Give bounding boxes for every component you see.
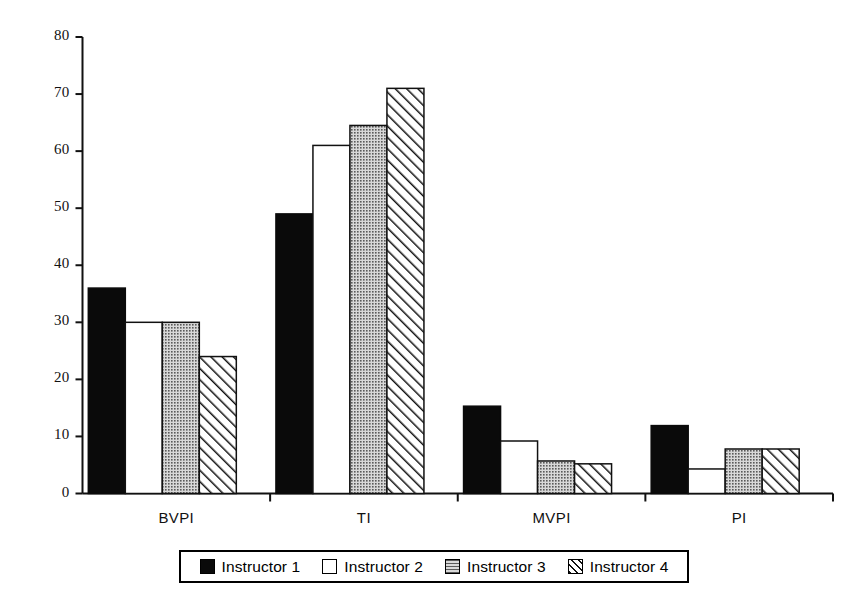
bar (725, 449, 762, 494)
legend-label: Instructor 1 (222, 558, 301, 576)
bar (199, 357, 236, 494)
y-axis-tick-label: 60 (30, 141, 70, 158)
bar (387, 88, 424, 493)
bar (501, 441, 538, 493)
legend-label: Instructor 4 (590, 558, 669, 576)
legend-label: Instructor 2 (344, 558, 423, 576)
legend-entry[interactable]: Instructor 2 (311, 558, 434, 576)
y-axis-tick-label: 30 (30, 312, 70, 329)
x-axis-ticks (270, 494, 833, 502)
bar (651, 426, 688, 494)
legend-entry[interactable]: Instructor 3 (434, 558, 557, 576)
y-axis-tick-label: 70 (30, 84, 70, 101)
bar (762, 449, 799, 494)
x-axis-category-label: TI (294, 509, 434, 526)
chart-legend: Instructor 1Instructor 2Instructor 3Inst… (179, 550, 689, 583)
y-axis-tick-label: 20 (30, 369, 70, 386)
bar (464, 406, 501, 493)
bars-group (88, 88, 799, 493)
y-axis-tick-label: 80 (30, 27, 70, 44)
y-axis-tick-label: 0 (30, 484, 70, 501)
bar (575, 464, 612, 494)
legend-entry[interactable]: Instructor 1 (189, 558, 312, 576)
bar (313, 145, 350, 493)
legend-swatch (200, 559, 215, 574)
bar (350, 125, 387, 493)
bar (88, 288, 125, 493)
legend-label: Instructor 3 (467, 558, 546, 576)
bar (125, 322, 162, 493)
bar (538, 461, 575, 494)
legend-entry[interactable]: Instructor 4 (557, 558, 680, 576)
legend-swatch (568, 559, 583, 574)
bar-chart: 01020304050607080 BVPITIMVPIPI Instructo… (0, 0, 865, 606)
bar (688, 469, 725, 494)
bar (162, 322, 199, 493)
y-axis-tick-label: 10 (30, 426, 70, 443)
bar (276, 214, 313, 494)
legend-swatch (322, 559, 337, 574)
y-axis-ticks (76, 37, 83, 494)
y-axis-tick-label: 40 (30, 255, 70, 272)
x-axis-category-label: PI (669, 509, 809, 526)
legend-swatch (445, 559, 460, 574)
x-axis-category-label: BVPI (106, 509, 246, 526)
y-axis-tick-label: 50 (30, 198, 70, 215)
x-axis-category-label: MVPI (482, 509, 622, 526)
